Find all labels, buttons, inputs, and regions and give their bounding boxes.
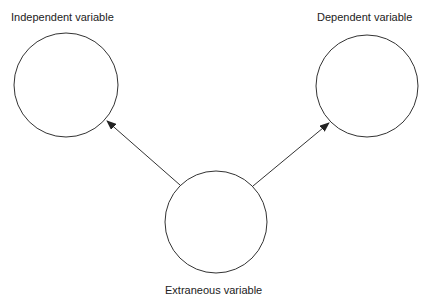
arrow-extraneous-to-dependent bbox=[253, 123, 329, 186]
arrow-extraneous-to-independent bbox=[107, 121, 180, 185]
extraneous-variable-node bbox=[165, 171, 267, 273]
diagram-canvas bbox=[0, 0, 430, 301]
independent-variable-node bbox=[14, 33, 118, 137]
extraneous-variable-label: Extraneous variable bbox=[165, 284, 262, 296]
independent-variable-label: Independent variable bbox=[11, 11, 114, 23]
dependent-variable-label: Dependent variable bbox=[317, 11, 412, 23]
dependent-variable-node bbox=[316, 35, 418, 137]
